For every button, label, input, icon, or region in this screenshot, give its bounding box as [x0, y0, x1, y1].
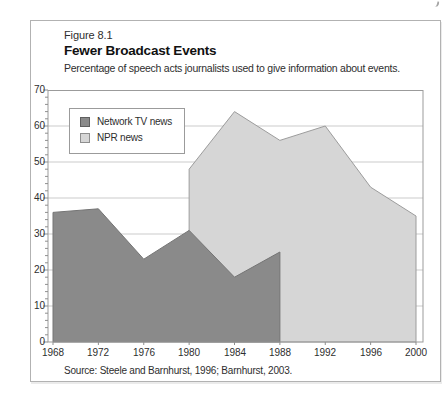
x-tick-label-1976: 1976 [124, 347, 164, 359]
chart-legend: Network TV news NPR news [69, 108, 185, 154]
x-tick-label-1996: 1996 [351, 347, 391, 359]
x-tick-label-1992: 1992 [305, 347, 345, 359]
x-tick-label-1988: 1988 [260, 347, 300, 359]
y-tick-label-10: 10 [17, 300, 45, 312]
source-citation: Source: Steele and Barnhurst, 1996; Barn… [64, 365, 292, 376]
page-corner-mark [434, 1, 439, 8]
x-tick-label-2000: 2000 [396, 347, 436, 359]
x-tick-label-1968: 1968 [33, 347, 73, 359]
x-tick-label-1972: 1972 [78, 347, 118, 359]
x-tick-label-1984: 1984 [215, 347, 255, 359]
y-tick-label-70: 70 [17, 84, 45, 96]
y-tick-label-50: 50 [17, 156, 45, 168]
figure-panel: Figure 8.1 Fewer Broadcast Events Percen… [30, 20, 441, 382]
legend-item-npr: NPR news [80, 132, 172, 143]
y-tick-label-20: 20 [17, 264, 45, 276]
legend-label: Network TV news [97, 116, 172, 127]
legend-item-network-tv: Network TV news [80, 116, 172, 127]
y-tick-label-30: 30 [17, 228, 45, 240]
legend-label: NPR news [97, 132, 143, 143]
y-tick-label-60: 60 [17, 120, 45, 132]
y-tick-label-40: 40 [17, 192, 45, 204]
book-page: Figure 8.1 Fewer Broadcast Events Percen… [0, 0, 448, 405]
chart-area: 70 60 50 40 30 20 10 0 1968 1972 1976 19… [31, 21, 442, 383]
npr-swatch-icon [80, 133, 90, 143]
network-tv-swatch-icon [80, 117, 90, 127]
x-tick-label-1980: 1980 [169, 347, 209, 359]
